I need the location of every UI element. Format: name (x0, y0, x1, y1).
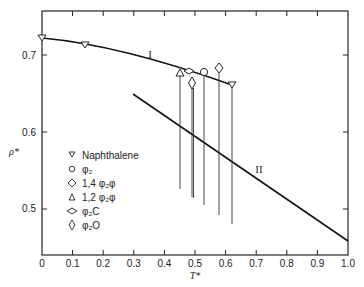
curve-II-label: II (255, 163, 263, 175)
x-tick-label: 0.5 (188, 258, 202, 269)
x-ticks (42, 11, 348, 255)
triangle-up-icon (69, 194, 75, 200)
markers (38, 35, 236, 89)
curve-II (133, 94, 348, 241)
diamond-tall-icon (69, 220, 75, 230)
x-axis-label: T* (190, 270, 201, 281)
legend-label: 1,2 φ₂φ (82, 192, 116, 203)
x-tick-label: 0.3 (127, 258, 141, 269)
x-tick-labels: 0 0.1 0.2 0.3 0.4 0.5 0.6 0.7 0.8 0.9 1.… (39, 258, 355, 269)
x-tick-label: 0.6 (219, 258, 233, 269)
diamond-marker (215, 63, 223, 73)
x-tick-label: 0.4 (157, 258, 171, 269)
legend-item-naphthalene: Naphthalene (69, 150, 139, 161)
triangle-down-icon (69, 152, 75, 157)
x-tick-label: 0.2 (96, 258, 110, 269)
diamond-icon (68, 179, 76, 187)
legend-label: φ₂ (82, 164, 92, 175)
legend-label: Naphthalene (82, 150, 139, 161)
x-tick-label: 1.0 (341, 258, 355, 269)
x-tick-label: 0 (39, 258, 45, 269)
circle-marker (200, 68, 207, 75)
legend: Naphthalene φ₂ 1,4 φ₂φ 1,2 φ₂φ φ₂C φ₂O (67, 150, 139, 231)
y-tick-label: 0.7 (22, 50, 36, 61)
legend-item-phi2: φ₂ (69, 164, 92, 175)
x-tick-label: 0.7 (249, 258, 263, 269)
naphthalene-marker (228, 82, 236, 88)
diamond-wide-icon (67, 208, 77, 214)
legend-item-14-phi2phi: 1,4 φ₂φ (68, 178, 116, 189)
y-tick-label: 0.5 (22, 203, 36, 214)
triangle-up-marker (176, 69, 184, 76)
legend-item-phi2o: φ₂O (69, 220, 100, 231)
diamond-tall-marker (189, 77, 196, 89)
circle-icon (69, 166, 75, 172)
legend-label: φ₂C (82, 206, 100, 217)
tie-lines (180, 73, 232, 224)
x-tick-label: 0.1 (66, 258, 80, 269)
x-tick-label: 0.9 (310, 258, 324, 269)
y-tick-label: 0.6 (22, 127, 36, 138)
y-tick-labels: 0.5 0.6 0.7 (22, 50, 36, 214)
curve-I-label: I (148, 48, 152, 60)
legend-label: φ₂O (82, 220, 100, 231)
legend-item-phi2c: φ₂C (67, 206, 100, 217)
legend-item-12-phi2phi: 1,2 φ₂φ (69, 192, 116, 203)
y-axis-label: ρ* (8, 146, 19, 157)
x-tick-label: 0.8 (280, 258, 294, 269)
curve-I (42, 38, 232, 85)
legend-label: 1,4 φ₂φ (82, 178, 116, 189)
plot-frame (42, 11, 348, 255)
phase-diagram-chart: 0 0.1 0.2 0.3 0.4 0.5 0.6 0.7 0.8 0.9 1.… (0, 0, 364, 287)
